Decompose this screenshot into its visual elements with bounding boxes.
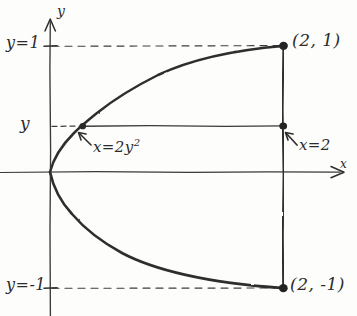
parabola-lower-branch [50, 172, 283, 288]
label-axis-x: x [340, 158, 347, 170]
curve-equation-base: x=2y [93, 138, 134, 156]
curve-equation-leader [79, 133, 92, 146]
label-line-equation: x=2 [299, 138, 331, 153]
gridline-y-equals-one [52, 46, 284, 47]
label-axis-y: y [57, 4, 65, 18]
label-y-generic: y [20, 115, 30, 132]
point-marker-2-minus1 [279, 284, 288, 292]
label-point-2-1: (2, 1) [292, 32, 341, 49]
point-marker-2-1 [279, 42, 288, 50]
line-equation-leader [286, 133, 298, 146]
label-curve-equation: x=2y2 [93, 138, 140, 155]
label-y-equals-minus-one: y=-1 [6, 277, 46, 293]
point-marker-curve-mid [80, 123, 87, 129]
point-markers [80, 42, 288, 293]
sketch-canvas: y=1 y=-1 y y x x=2y2 x=2 (2, 1) (2, -1) [0, 0, 357, 316]
point-marker-2-mid [279, 122, 287, 129]
curve-equation-exponent: 2 [134, 137, 141, 148]
vertical-line-x-equals-2 [283, 46, 284, 288]
horizontal-strip-line [83, 126, 283, 127]
label-y-equals-one: y=1 [6, 35, 40, 51]
label-point-2-minus1: (2, -1) [290, 276, 345, 293]
parabola-upper-branch [50, 46, 283, 172]
